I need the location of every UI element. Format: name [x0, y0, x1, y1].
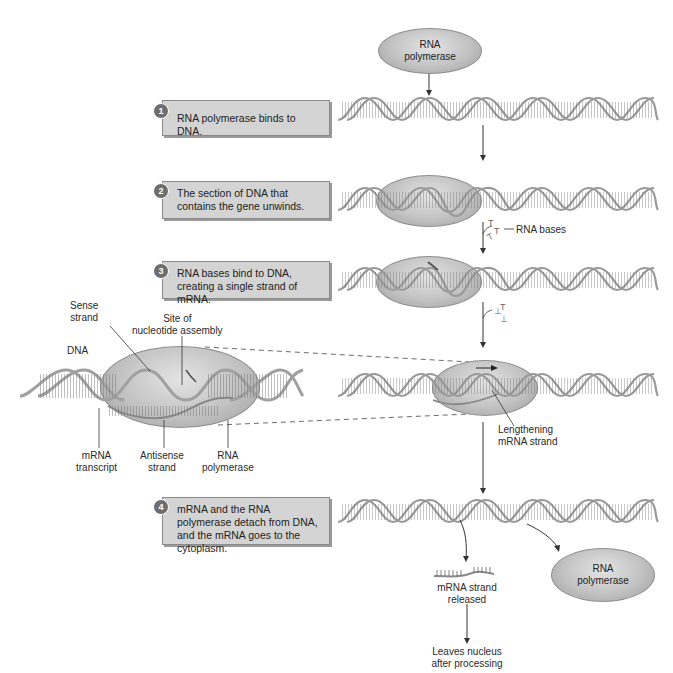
mrna-strand-icon [434, 566, 496, 580]
leaves-nucleus-label: Leaves nucleusafter processing [420, 646, 514, 670]
rna-polymerase-enzyme-released: RNA polymerase [551, 548, 655, 602]
mrna-released-label: mRNA strandreleased [430, 582, 504, 606]
